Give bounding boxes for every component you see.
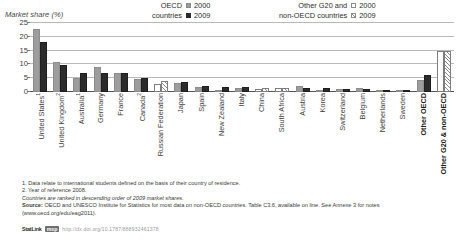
black-square-icon [186, 13, 191, 18]
x-axis-category: Germany [91, 93, 111, 175]
bar-group [91, 22, 111, 92]
legend-title-line2: countries [152, 11, 182, 21]
x-axis-category: Switzerland [333, 93, 353, 175]
bar-2009 [181, 82, 188, 92]
x-axis-category-label: Australia1 [76, 93, 86, 124]
bar-2009 [323, 88, 330, 92]
bar-group [212, 22, 232, 92]
x-axis-category: Australia1 [70, 93, 90, 175]
note-source-url: (www.oecd.org/edu/eag2011). [22, 210, 452, 217]
x-axis-category-label: Italy [238, 93, 245, 106]
x-axis-category-label: China [259, 93, 266, 112]
bar-2009 [121, 73, 128, 92]
footnote-marker: 2 [136, 93, 142, 96]
x-axis-category-label: Korea [319, 93, 326, 112]
chart-notes: 1. Data relate to international students… [22, 180, 452, 217]
bar-2009 [202, 86, 209, 92]
y-tick-label: 20 [2, 31, 28, 40]
bar-2009 [282, 88, 289, 92]
footnote-marker: 1 [35, 93, 41, 96]
bar-2000 [134, 79, 141, 92]
x-axis-category: Spain [192, 93, 212, 175]
x-axis-category: Sweden [393, 93, 413, 175]
y-tick-label: 25 [2, 18, 28, 27]
bar-groups [30, 22, 454, 92]
x-axis-category: France [111, 93, 131, 175]
statlink-badge-icon: msp [45, 226, 60, 232]
x-axis-category: Belgium [353, 93, 373, 175]
x-axis-category: Canada2 [131, 93, 151, 175]
x-axis-category-label: Other OECD [420, 93, 427, 136]
bar-2000 [215, 90, 222, 92]
x-axis-category-label: Austria [299, 93, 306, 116]
bar-2009 [101, 73, 108, 92]
bar-2000 [154, 84, 161, 92]
x-axis-category: China [252, 93, 272, 175]
x-axis-category: Other G20 & non-OECD [434, 93, 454, 175]
bar-group [131, 22, 151, 92]
bar-2009 [60, 65, 67, 92]
legend-label-non-oecd-2000: 2000 [359, 1, 375, 11]
x-axis-category-label: United Kingdom2 [55, 93, 65, 148]
y-axis-ticks: 0510152025 [0, 22, 28, 92]
bar-2009 [343, 89, 350, 92]
x-axis-category-label: Spain [198, 93, 205, 112]
bar-2000 [255, 89, 262, 92]
bar-2000 [316, 90, 323, 92]
x-axis-category: Other OECD [414, 93, 434, 175]
note-source: Source: OECD and UNESCO Institute for St… [22, 202, 452, 209]
bar-group [252, 22, 272, 92]
bar-2000 [437, 51, 444, 92]
x-axis-category-label: France [117, 93, 124, 116]
legend-label-oecd-2000: 2000 [194, 1, 210, 11]
bar-2000 [336, 89, 343, 92]
bar-group [30, 22, 50, 92]
bar-2000 [94, 67, 101, 92]
x-axis-category: New Zealand [212, 93, 232, 175]
statlink-url[interactable]: http://dx.doi.org/10.1787/888932461378 [62, 226, 158, 232]
x-axis-category-label: Japan [178, 93, 185, 113]
x-axis-category-label: Russian Federation [158, 93, 165, 156]
bar-2000 [275, 88, 282, 92]
x-axis-category: Italy [232, 93, 252, 175]
legend-item-oecd-2009[interactable]: 2009 [186, 11, 210, 21]
legend-item-oecd-2000[interactable]: 2000 [186, 1, 210, 11]
x-axis-category: South Africa [272, 93, 292, 175]
legend-label-oecd-2009: 2009 [194, 11, 210, 21]
bar-group [232, 22, 252, 92]
bar-group [50, 22, 70, 92]
white-square-icon [351, 3, 356, 8]
x-axis-category-label: New Zealand [218, 93, 225, 136]
bar-2000 [53, 62, 60, 92]
bar-group [171, 22, 191, 92]
bar-2000 [376, 90, 383, 92]
legend-title-line2-alt: non-OECD countries [279, 11, 347, 21]
x-axis-category: Japan [171, 93, 191, 175]
bar-2009 [424, 75, 431, 92]
bar-2000 [396, 90, 403, 92]
grey-square-icon [186, 3, 191, 8]
y-tick-label: 10 [2, 59, 28, 68]
x-axis-category-label: Other G20 & non-OECD [440, 93, 447, 175]
x-axis-category-label: Canada2 [136, 93, 146, 121]
note-1: 1. Data relate to international students… [22, 180, 452, 187]
legend-title-line1-alt: Other G20 and [279, 1, 347, 11]
x-axis-category-labels: United States1United Kingdom2Australia1G… [30, 93, 454, 175]
legend-label-non-oecd-2009: 2009 [359, 11, 375, 21]
bar-2009 [80, 73, 87, 92]
bar-2000 [114, 73, 121, 92]
x-axis-category-label: Switzerland [339, 93, 346, 131]
legend-item-non-oecd-2000[interactable]: 2000 [351, 1, 375, 11]
bar-group [434, 22, 454, 92]
bar-2000 [73, 78, 80, 92]
statlink[interactable]: StatLink msp http://dx.doi.org/10.1787/8… [22, 226, 159, 232]
legend-item-non-oecd-2009[interactable]: 2009 [351, 11, 375, 21]
bar-2000 [195, 87, 202, 92]
bar-2009 [161, 81, 168, 92]
bar-2009 [141, 78, 148, 92]
bar-2009 [383, 90, 390, 92]
bar-group [414, 22, 434, 92]
bar-group [373, 22, 393, 92]
bar-group [70, 22, 90, 92]
bar-2009 [363, 89, 370, 92]
